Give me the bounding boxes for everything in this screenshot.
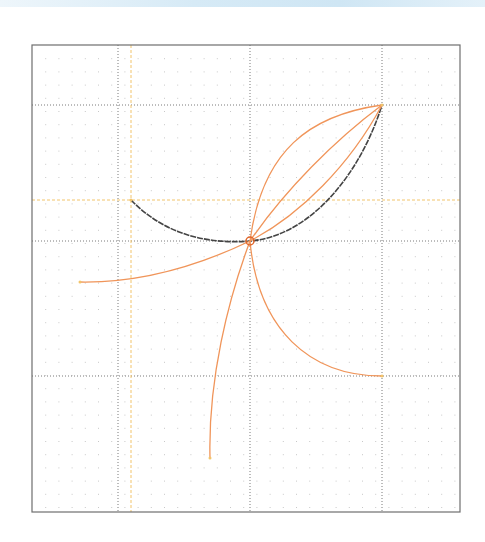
curve-endpoints bbox=[79, 104, 384, 460]
endpoint-handle[interactable] bbox=[381, 104, 384, 107]
orange-curve-lower-right-arc[interactable] bbox=[250, 241, 382, 376]
endpoint-handle[interactable] bbox=[130, 199, 133, 202]
major-gridlines bbox=[32, 45, 460, 512]
minor-grid-dots bbox=[45, 58, 455, 508]
endpoint-handle[interactable] bbox=[79, 281, 82, 284]
diagram-svg[interactable] bbox=[0, 0, 485, 542]
endpoint-handle[interactable] bbox=[209, 457, 212, 460]
drawing-canvas[interactable] bbox=[0, 0, 485, 542]
endpoint-handle[interactable] bbox=[381, 375, 384, 378]
plot-frame bbox=[32, 45, 460, 512]
orange-curves bbox=[80, 105, 382, 458]
dark-bezier-curve[interactable] bbox=[131, 105, 382, 242]
guide-lines bbox=[32, 45, 460, 512]
orange-curve-upper-arc[interactable] bbox=[250, 105, 382, 241]
orange-curve-left-arc[interactable] bbox=[80, 241, 250, 282]
